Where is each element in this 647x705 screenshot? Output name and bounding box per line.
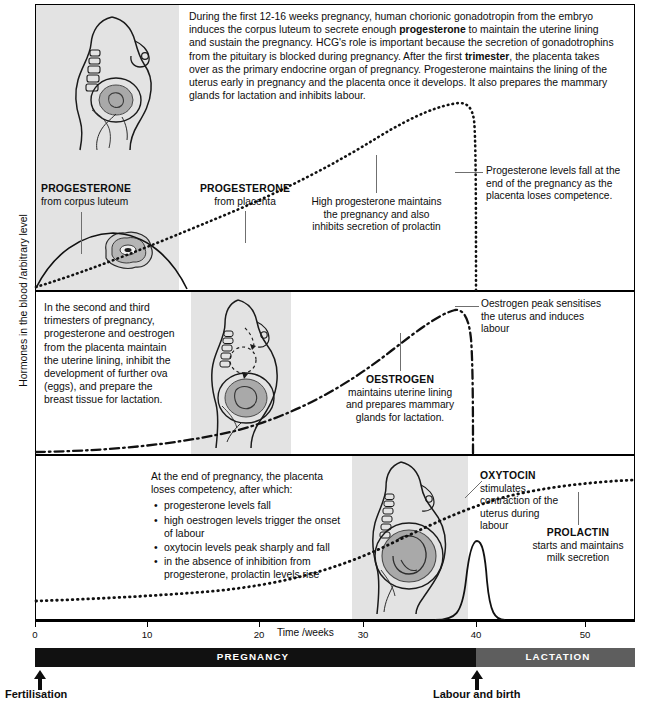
corpus-label-title: PROGESTERONE bbox=[41, 183, 131, 194]
label-oestrogen: OESTROGEN maintains uterine lining and p… bbox=[340, 374, 460, 424]
x-tick-label: 30 bbox=[358, 629, 369, 640]
note-oestrogen-peak: Oestrogen peak sensitises the uterus and… bbox=[481, 298, 609, 336]
placenta-label-title: PROGESTERONE bbox=[200, 183, 290, 194]
leader-progesterone-fall bbox=[455, 172, 483, 173]
prolactin-label-sub: starts and maintains milk secretion bbox=[532, 540, 623, 564]
event-label-birth: Labour and birth bbox=[433, 688, 520, 700]
label-progesterone-corpus-luteum: PROGESTERONE from corpus luteum bbox=[41, 183, 166, 208]
label-oxytocin: OXYTOCIN stimulates contraction of the u… bbox=[480, 470, 564, 533]
x-tick-label: 20 bbox=[254, 629, 265, 640]
leader-prolactin bbox=[578, 492, 579, 525]
timeline-pregnancy-label: PREGNANCY bbox=[217, 651, 290, 662]
oestrogen-label-sub: maintains uterine lining and prepares ma… bbox=[346, 387, 454, 423]
x-tick-label: 50 bbox=[580, 629, 591, 640]
x-tick-0 bbox=[35, 620, 36, 627]
panel1-curves bbox=[35, 4, 636, 292]
leader-oxytocin bbox=[464, 480, 484, 500]
x-axis-label: Time /weeks bbox=[277, 627, 334, 638]
leader-oestrogen-peak bbox=[455, 306, 479, 307]
x-tick-40 bbox=[476, 620, 477, 627]
note-high-progesterone: High progesterone maintains the pregnanc… bbox=[310, 196, 443, 234]
note-progesterone-fall: Progesterone levels fall at the end of t… bbox=[486, 165, 631, 203]
prolactin-label-title: PROLACTIN bbox=[547, 527, 609, 538]
x-tick-label: 0 bbox=[32, 629, 37, 640]
timeline-lactation-label: LACTATION bbox=[525, 651, 590, 662]
leader-placenta bbox=[245, 211, 246, 243]
x-tick-50 bbox=[585, 620, 586, 627]
x-axis-line bbox=[35, 620, 635, 622]
x-tick-label: 10 bbox=[142, 629, 153, 640]
oxytocin-label-sub: stimulates contraction of the uterus dur… bbox=[480, 483, 558, 532]
leader-high-progesterone bbox=[376, 155, 377, 193]
leader-corpus-luteum bbox=[81, 212, 82, 254]
x-tick-10 bbox=[147, 620, 148, 627]
x-tick-20 bbox=[259, 620, 260, 627]
x-tick-30 bbox=[363, 620, 364, 627]
placenta-label-sub: from placenta bbox=[214, 196, 276, 207]
event-label-fertilisation: Fertilisation bbox=[5, 688, 67, 700]
oxytocin-label-title: OXYTOCIN bbox=[480, 470, 536, 481]
leader-oestrogen bbox=[400, 333, 401, 371]
x-tick-label: 40 bbox=[471, 629, 482, 640]
label-prolactin: PROLACTIN starts and maintains milk secr… bbox=[528, 527, 628, 565]
corpus-label-sub: from corpus luteum bbox=[41, 196, 128, 207]
y-axis-label: Hormones in the blood /arbitrary level bbox=[18, 186, 29, 416]
oestrogen-label-title: OESTROGEN bbox=[366, 374, 434, 385]
figure-canvas: During the first 12-16 weeks pregnancy, … bbox=[0, 0, 647, 705]
label-progesterone-placenta: PROGESTERONE from placenta bbox=[184, 183, 306, 208]
